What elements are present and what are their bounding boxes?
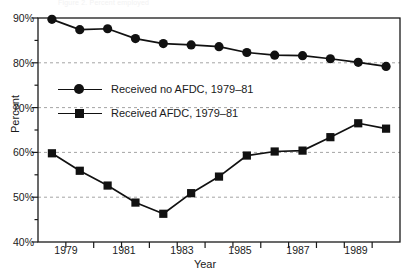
y-axis-title: Percent	[9, 81, 21, 147]
x-tick-label: 1987	[278, 244, 318, 256]
y-tick-label: 60%	[0, 147, 34, 157]
x-tick-label: 1989	[336, 244, 376, 256]
y-tick-label: 50%	[0, 192, 34, 202]
y-tick-label: 40%	[0, 237, 34, 247]
legend-item-afdc: Received AFDC, 1979–81	[58, 101, 253, 125]
x-tick-label: 1985	[220, 244, 260, 256]
y-tick-label: 80%	[0, 58, 34, 68]
square-marker-icon	[58, 107, 102, 119]
legend-item-no-afdc: Received no AFDC, 1979–81	[58, 77, 253, 101]
legend-label: Received no AFDC, 1979–81	[111, 83, 253, 95]
chart-legend: Received no AFDC, 1979–81 Received AFDC,…	[58, 77, 253, 125]
x-tick-label: 1981	[104, 244, 144, 256]
circle-marker-icon	[58, 83, 102, 95]
x-tick-label: 1983	[162, 244, 202, 256]
line-chart-plot	[0, 0, 410, 278]
y-tick-label: 90%	[0, 13, 34, 23]
legend-label: Received AFDC, 1979–81	[111, 107, 238, 119]
x-tick-label: 1979	[46, 244, 86, 256]
axis-ticks	[32, 18, 372, 248]
x-axis-title: Year	[0, 258, 410, 270]
